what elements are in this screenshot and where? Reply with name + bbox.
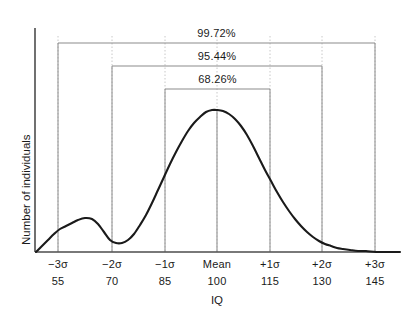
x-tick-sigma-label: −1σ [155,258,175,270]
y-axis-title: Number of individuals [20,134,32,245]
x-tick-sigma-label: +1σ [260,258,280,270]
x-tick-sigma-label: +2σ [312,258,332,270]
x-tick-iq-label: 55 [52,275,65,287]
x-axis-title: IQ [211,294,223,306]
iq-distribution-chart: Number of individuals IQ −3σ55−2σ70−1σ85… [0,0,410,316]
bracket-percent-label: 68.26% [198,73,237,85]
x-tick-iq-label: 70 [106,275,119,287]
x-tick-iq-label: 85 [159,275,172,287]
distribution-curve [36,110,400,252]
x-tick-sigma-label: +3σ [365,258,385,270]
bracket-percent-label: 99.72% [197,27,236,39]
distribution-curve-group [36,110,400,252]
x-tick-sigma-label: −2σ [102,258,122,270]
x-tick-iq-label: 145 [366,275,385,287]
bracket-percent-label: 95.44% [198,50,237,62]
x-tick-iq-label: 100 [208,275,227,287]
x-tick-iq-label: 115 [261,275,279,287]
x-tick-sigma-label: Mean [203,258,231,270]
x-tick-iq-label: 130 [313,275,332,287]
x-tick-sigma-label: −3σ [48,258,68,270]
